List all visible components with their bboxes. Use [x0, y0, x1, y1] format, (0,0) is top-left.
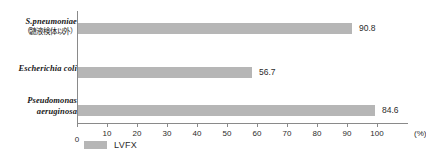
x-tick-label-60: 60: [253, 129, 262, 138]
bar-value-escherichia-coli: 56.7: [259, 67, 276, 77]
category-label-pseudomonas-aeruginosa: Pseudomonas aeruginosa: [0, 95, 77, 116]
x-tick-mark-90: [347, 123, 348, 127]
plot-area: 90.8 56.7 84.6 0 10 20 30 40 50 60 70 80…: [77, 11, 408, 123]
category-label-escherichia-coli: Escherichia coli: [0, 63, 77, 74]
bar-value-pseudomonas-aeruginosa: 84.6: [382, 105, 399, 115]
x-tick-label-90: 90: [343, 129, 352, 138]
x-tick-label-30: 30: [163, 129, 172, 138]
x-tick-label-40: 40: [193, 129, 202, 138]
bar-escherichia-coli: [78, 67, 252, 78]
x-tick-label-20: 20: [133, 129, 142, 138]
x-tick-mark-40: [197, 123, 198, 127]
x-tick-label-50: 50: [223, 129, 232, 138]
category-label-species-line2: aeruginosa: [0, 106, 77, 117]
category-label-note-text: （髄液検体以外）: [0, 27, 77, 38]
category-label-species-text: S.pneumoniae: [25, 16, 77, 26]
x-tick-mark-60: [257, 123, 258, 127]
legend-label-lvfx: LVFX: [114, 140, 137, 150]
x-tick-mark-10: [107, 123, 108, 127]
x-tick-mark-70: [287, 123, 288, 127]
x-tick-mark-100: [377, 123, 378, 127]
x-tick-mark-50: [227, 123, 228, 127]
x-tick-label-70: 70: [283, 129, 292, 138]
category-label-species-line1: Pseudomonas: [27, 95, 77, 105]
bar-value-s-pneumoniae: 90.8: [359, 23, 376, 33]
x-tick-mark-30: [167, 123, 168, 127]
x-tick-label-80: 80: [313, 129, 322, 138]
category-label-s-pneumoniae: S.pneumoniae （髄液検体以外）: [0, 16, 77, 37]
x-tick-mark-20: [137, 123, 138, 127]
x-tick-label-10: 10: [103, 129, 112, 138]
category-label-species-text: Escherichia coli: [18, 63, 77, 73]
x-tick-label-100: 100: [370, 129, 383, 138]
x-axis-line: [77, 123, 408, 124]
legend: LVFX: [84, 140, 137, 150]
legend-swatch-lvfx: [84, 141, 107, 149]
bar-pseudomonas-aeruginosa: [78, 105, 375, 116]
x-tick-mark-80: [317, 123, 318, 127]
x-tick-mark-0: [77, 123, 78, 127]
x-axis-unit-label: (%): [414, 129, 426, 138]
x-tick-label-0: 0: [75, 135, 79, 144]
bar-s-pneumoniae: [78, 23, 352, 34]
